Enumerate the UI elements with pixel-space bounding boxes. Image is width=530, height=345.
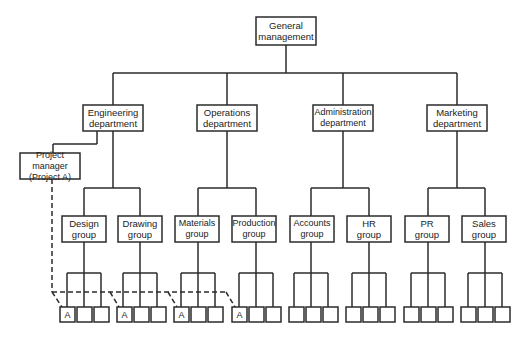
node-label: HR [362,218,376,229]
node-administration-department: Administration department [313,105,373,131]
node-label: group [185,229,208,240]
node-label: group [300,229,323,240]
project-a-member: A [174,307,189,322]
node-label: Marketing [436,107,478,118]
node-label: department [203,118,251,129]
node-operations-department: Operations department [197,105,257,131]
node-label: Project manager [18,150,82,172]
node-label: Design [69,218,99,229]
node-label: General [269,20,303,31]
node-label: group [415,229,439,240]
node-label: Sales [472,218,496,229]
node-label: group [472,229,496,240]
node-label: department [320,118,366,129]
node-label: group [72,229,96,240]
node-label: group [357,229,381,240]
node-marketing-department: Marketing department [427,105,487,131]
node-pr-group: PR group [405,216,449,242]
node-accounts-group: Accounts group [290,216,334,242]
node-label: Drawing [123,218,158,229]
node-label: department [89,118,137,129]
project-a-member: A [60,307,75,322]
node-label: (Project A) [29,172,71,183]
node-production-group: Production group [232,216,276,242]
node-label: PR [420,218,433,229]
node-label: Production [232,218,275,229]
node-general-management: General management [256,17,316,45]
node-design-group: Design group [62,216,106,242]
node-label: group [242,229,265,240]
node-materials-group: Materials group [175,216,219,242]
node-label: department [433,118,481,129]
project-a-member: A [232,307,247,322]
node-label: Administration [314,107,371,118]
node-label: Materials [179,218,216,229]
node-label: group [128,229,152,240]
project-a-member: A [117,307,132,322]
node-sales-group: Sales group [462,216,506,242]
node-engineering-department: Engineering department [83,105,143,131]
node-hr-group: HR group [347,216,391,242]
node-project-manager: Project manager (Project A) [18,153,82,179]
node-label: Engineering [88,107,139,118]
node-drawing-group: Drawing group [118,216,162,242]
node-label: management [258,31,313,42]
node-label: Accounts [293,218,330,229]
node-label: Operations [204,107,250,118]
